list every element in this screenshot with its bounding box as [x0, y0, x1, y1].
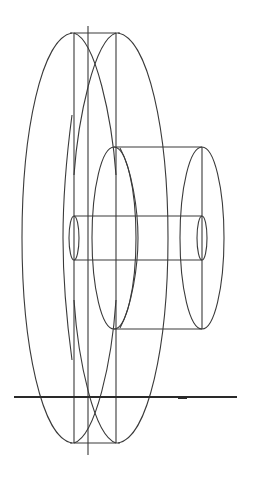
large-disc-front-inner-arc [74, 33, 116, 443]
large-disc-back-inner-arc [74, 33, 116, 443]
ground-line [14, 397, 237, 398]
hub-cylinder [92, 147, 224, 329]
large-disc-front-left-edge [63, 115, 72, 360]
diagram-canvas [0, 0, 253, 478]
hub-inner-arc [120, 148, 138, 328]
large-disc-front-ellipse [22, 33, 72, 443]
large-disc-back-ellipse [118, 33, 168, 443]
wheel-wireframe-drawing [0, 0, 253, 478]
large-disc [22, 33, 168, 443]
